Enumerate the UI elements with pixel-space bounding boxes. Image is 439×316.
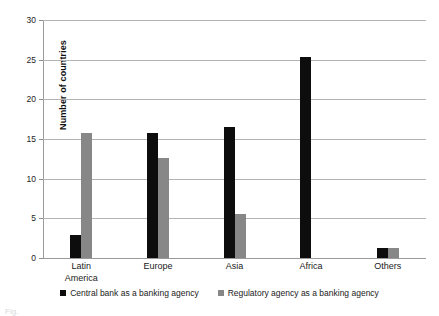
bar [147,133,158,258]
plot-area: 051015202530 [43,20,426,258]
y-tick-label-30: 30 [27,15,36,25]
y-tick-mark-10 [39,179,43,180]
legend-label: Central bank as a banking agency [70,288,199,298]
figure-caption: Fig. [5,307,18,316]
legend-item: Central bank as a banking agency [60,288,199,298]
bar [235,214,246,258]
legend-swatch-icon [60,290,66,296]
bar [81,133,92,258]
bar [300,57,311,259]
y-tick-label-20: 20 [27,94,36,104]
y-tick-label-0: 0 [31,253,36,263]
bar [158,158,169,258]
y-tick-label-5: 5 [31,213,36,223]
bar [377,248,388,258]
y-tick-mark-25 [39,60,43,61]
chart-legend: Central bank as a banking agencyRegulato… [0,288,439,298]
y-tick-mark-30 [39,20,43,21]
gridline-0: 0 [43,258,426,259]
y-tick-mark-20 [39,99,43,100]
y-tick-label-15: 15 [27,134,36,144]
bar [224,127,235,258]
bar-group [70,20,92,258]
bar-group [224,20,246,258]
y-tick-mark-5 [39,218,43,219]
y-tick-label-25: 25 [27,55,36,65]
legend-swatch-icon [218,290,224,296]
bar-chart-figure: Number of countries 051015202530 Central… [0,0,439,316]
y-tick-label-10: 10 [27,174,36,184]
y-tick-mark-15 [39,139,43,140]
y-tick-mark-0 [39,258,43,259]
legend-label: Regulatory agency as a banking agency [228,288,379,298]
bar [388,248,399,258]
bar-group [147,20,169,258]
legend-item: Regulatory agency as a banking agency [218,288,379,298]
bar [70,235,81,258]
x-axis-category-label: Others [343,261,433,273]
bar-group [377,20,399,258]
bar-group [300,20,322,258]
